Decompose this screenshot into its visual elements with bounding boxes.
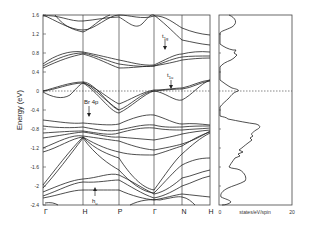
ytick-label: 0 [36, 88, 39, 94]
dos-xtick-label: 20 [289, 209, 295, 215]
y-axis-ticks [43, 15, 46, 205]
annotation-br4p: Br 4p [84, 99, 99, 117]
k-label-h: H [82, 208, 87, 215]
k-label-gamma: Γ [153, 208, 157, 215]
y-axis-title: Energy (eV) [15, 89, 24, 130]
ytick-label: -2.4 [30, 202, 39, 208]
dos-x-axis-title: states/eV/spin [239, 209, 271, 215]
ytick-label: -0.4 [30, 107, 39, 113]
arrow-up-icon [93, 187, 97, 191]
annotation-label: hu [92, 198, 98, 206]
band-curves [43, 15, 210, 205]
band-panel-frame [43, 15, 210, 205]
ytick-label: -2 [35, 183, 40, 189]
k-point-labels: Γ H P Γ N H [44, 208, 213, 215]
ytick-label: 0.8 [32, 50, 39, 56]
k-label-gamma: Γ [44, 208, 48, 215]
dos-xtick-label: 0 [219, 209, 222, 215]
k-label-p: P [118, 208, 123, 215]
ytick-label: 1.2 [32, 31, 39, 37]
ytick-label: 0.4 [32, 69, 39, 75]
ytick-label: -1.2 [30, 145, 39, 151]
band-structure-figure: 1.6 1.2 0.8 0.4 0 -0.4 -0.8 -1.2 -1.6 -2… [0, 0, 321, 233]
k-label-h: H [208, 208, 213, 215]
annotation-t1u: t1u [167, 72, 173, 89]
ytick-label: -0.8 [30, 126, 39, 132]
arrow-down-icon [163, 46, 167, 50]
annotation-label: t1g [162, 33, 168, 41]
k-label-n: N [181, 208, 186, 215]
annotation-label: Br 4p [84, 99, 99, 105]
ytick-label: 1.6 [32, 12, 39, 18]
y-axis-tick-labels: 1.6 1.2 0.8 0.4 0 -0.4 -0.8 -1.2 -1.6 -2… [30, 12, 39, 208]
annotation-label: t1u [167, 72, 173, 80]
annotation-t1g: t1g [162, 33, 168, 50]
dos-panel-frame [219, 15, 292, 205]
dos-curve [220, 15, 260, 205]
ytick-label: -1.6 [30, 164, 39, 170]
arrow-down-icon [87, 113, 91, 117]
